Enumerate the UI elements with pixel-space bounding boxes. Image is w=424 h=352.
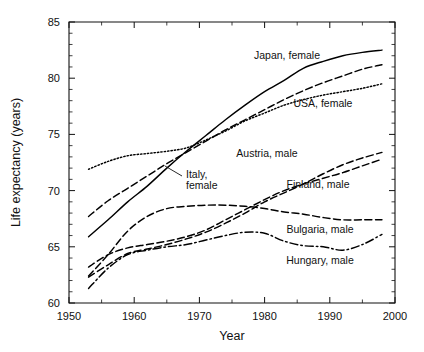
chart-canvas: 195019601970198019902000606570758085 Jap… [0, 0, 424, 352]
y-tick-label: 70 [48, 185, 60, 197]
y-tick-label: 85 [48, 16, 60, 28]
x-tick-label: 1990 [318, 310, 342, 322]
x-axis-title: Year [219, 329, 244, 343]
y-tick-label: 65 [48, 241, 60, 253]
series-label: USA, female [294, 97, 353, 109]
life-expectancy-chart: 195019601970198019902000606570758085 Jap… [0, 0, 424, 352]
x-tick-label: 2000 [383, 310, 407, 322]
x-tick-label: 1960 [122, 310, 146, 322]
y-tick-label: 80 [48, 72, 60, 84]
y-tick-label: 75 [48, 128, 60, 140]
x-tick-label: 1970 [187, 310, 211, 322]
series-label: Finland, male [286, 178, 349, 190]
x-tick-label: 1980 [252, 310, 276, 322]
series-label: Austria, male [236, 147, 297, 159]
series-label: Bulgaria, male [286, 223, 353, 235]
series-label: Hungary, male [286, 254, 354, 266]
series-label: Japan, female [254, 49, 320, 61]
y-axis-title: Life expectancy (years) [9, 98, 23, 227]
y-tick-label: 60 [48, 297, 60, 309]
x-tick-label: 1950 [57, 310, 81, 322]
